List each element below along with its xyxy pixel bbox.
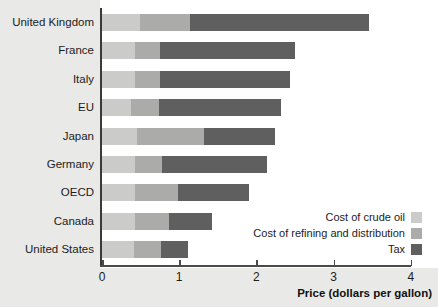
legend-swatch-crude	[411, 212, 422, 223]
legend-item: Tax	[214, 241, 422, 257]
x-tick-label: 1	[164, 270, 194, 284]
x-tick-mark	[411, 260, 413, 266]
legend-label: Cost of refining and distribution	[253, 227, 405, 239]
x-tick-label: 2	[241, 270, 271, 284]
x-tick-mark	[334, 260, 336, 266]
x-tick-mark	[179, 260, 181, 266]
legend-item: Cost of crude oil	[214, 209, 422, 225]
legend-label: Tax	[388, 243, 405, 255]
x-tick-mark	[102, 260, 104, 266]
x-axis-title: Price (dollars per gallon)	[0, 287, 432, 299]
x-tick-label: 0	[87, 270, 117, 284]
chart-legend: Cost of crude oilCost of refining and di…	[214, 209, 422, 257]
x-tick-mark	[256, 260, 258, 266]
x-tick-label: 4	[396, 270, 426, 284]
x-axis-ticks: 01234	[0, 0, 438, 307]
legend-label: Cost of crude oil	[326, 211, 405, 223]
legend-swatch-refining	[411, 228, 422, 239]
stacked-bar-chart: United KingdomFranceItalyEUJapanGermanyO…	[0, 0, 438, 307]
x-tick-label: 3	[319, 270, 349, 284]
legend-swatch-tax	[411, 244, 422, 255]
legend-item: Cost of refining and distribution	[214, 225, 422, 241]
